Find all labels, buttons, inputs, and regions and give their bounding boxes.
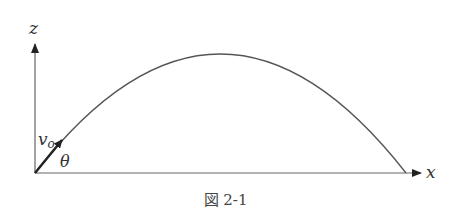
- velocity-symbol: v: [38, 129, 48, 149]
- projectile-diagram: z x vo θ 図 2-1: [0, 0, 451, 220]
- trajectory-curve: [35, 54, 406, 173]
- velocity-label: vo: [38, 129, 55, 151]
- x-axis-label: x: [426, 162, 436, 182]
- angle-label: θ: [60, 152, 70, 171]
- z-axis-label: z: [28, 18, 39, 38]
- velocity-subscript: o: [48, 137, 55, 151]
- figure-caption: 図 2-1: [0, 188, 451, 209]
